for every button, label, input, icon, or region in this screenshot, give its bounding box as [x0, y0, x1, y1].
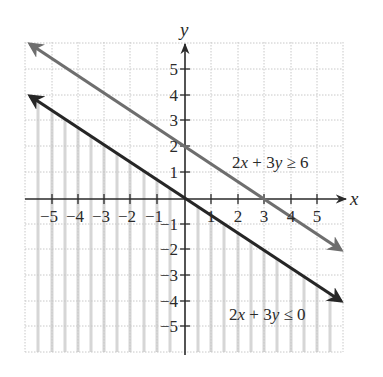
y-tick-label: 2 — [170, 137, 179, 156]
x-tick-label: −3 — [92, 207, 110, 226]
y-tick-label: −2 — [160, 240, 178, 259]
y-tick-label: 4 — [170, 86, 179, 105]
y-tick-label: −1 — [160, 215, 178, 234]
x-axis-label: x — [349, 188, 359, 209]
y-tick-label: 3 — [170, 111, 179, 130]
x-tick-label: 1 — [207, 207, 216, 226]
y-tick-label: −5 — [160, 317, 178, 336]
x-tick-label: 5 — [313, 207, 322, 226]
y-axis-label: y — [178, 19, 189, 40]
x-tick-label: −4 — [66, 207, 85, 226]
x-tick-label: 3 — [260, 207, 269, 226]
x-tick-label: 2 — [234, 207, 243, 226]
inequality-label-lower: 2x + 3y ≤ 0 — [229, 305, 306, 324]
y-tick-label: 5 — [170, 60, 179, 79]
x-tick-label: 4 — [287, 207, 296, 226]
inequality-label-upper: 2x + 3y ≥ 6 — [232, 153, 309, 172]
x-tick-label: −2 — [118, 207, 136, 226]
x-tick-label: −5 — [40, 207, 58, 226]
y-tick-label: 1 — [170, 163, 179, 182]
y-tick-label: −3 — [160, 266, 178, 285]
inequality-graph: −5 −4 −3 −2 −1 1 2 3 4 5 5 4 3 2 1 −1 −2… — [0, 0, 383, 377]
y-tick-label: −4 — [160, 292, 179, 311]
